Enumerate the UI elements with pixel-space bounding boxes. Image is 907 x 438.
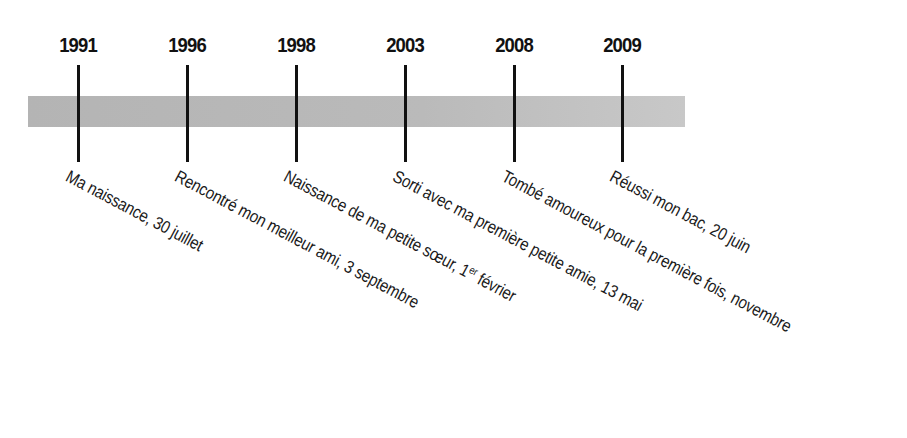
timeline-bar: [28, 96, 685, 127]
year-label-1996: 1996: [152, 33, 222, 57]
tick-1998: [295, 65, 298, 162]
event-label-1998-text-end: février: [471, 267, 520, 306]
tick-1991: [77, 65, 80, 162]
timeline: 1991 Ma naissance, 30 juillet 1996 Renco…: [0, 0, 907, 438]
tick-1996: [186, 65, 189, 162]
tick-2009: [621, 65, 624, 162]
year-label-2003: 2003: [370, 33, 440, 57]
tick-2003: [404, 65, 407, 162]
event-label-1998-text: Naissance de ma petite sœur, 1: [281, 166, 473, 281]
year-label-2008: 2008: [479, 33, 549, 57]
year-label-1998: 1998: [261, 33, 331, 57]
tick-2008: [513, 65, 516, 162]
year-label-1991: 1991: [43, 33, 113, 57]
year-label-2009: 2009: [587, 33, 657, 57]
